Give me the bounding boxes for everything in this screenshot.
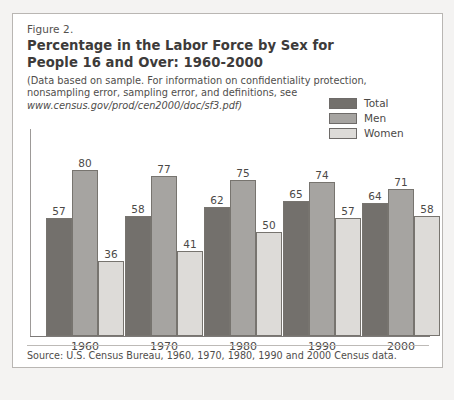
bar-men-1960[interactable]: 80 — [72, 170, 98, 336]
bar-group-1990: 657457 — [283, 128, 361, 336]
bar-value-men-1990: 74 — [310, 169, 334, 181]
bar-value-total-2000: 64 — [363, 190, 387, 202]
figure-frame: Figure 2. Percentage in the Labor Force … — [12, 13, 443, 368]
bar-women-1960[interactable]: 36 — [98, 261, 124, 336]
bar-value-total-1990: 65 — [284, 188, 308, 200]
bar-men-1970[interactable]: 77 — [151, 176, 177, 336]
bar-value-total-1980: 62 — [205, 194, 229, 206]
x-axis-baseline — [30, 336, 430, 337]
source-divider — [27, 345, 429, 346]
bar-value-women-1960: 36 — [99, 248, 123, 260]
figure-number: Figure 2. — [27, 23, 73, 35]
source-note: Source: U.S. Census Bureau, 1960, 1970, … — [27, 350, 397, 361]
y-axis-line — [30, 129, 31, 337]
legend-label-total: Total — [364, 98, 389, 109]
bar-women-1980[interactable]: 50 — [256, 232, 282, 336]
bar-value-women-1980: 50 — [257, 219, 281, 231]
bar-value-men-1970: 77 — [152, 163, 176, 175]
figure-note-url[interactable]: www.census.gov/prod/cen2000/doc/sf3.pdf) — [27, 100, 327, 112]
bar-value-total-1970: 58 — [126, 203, 150, 215]
bar-total-2000[interactable]: 64 — [362, 203, 388, 336]
legend-item-men: Men — [329, 111, 439, 125]
bar-value-women-1990: 57 — [336, 205, 360, 217]
bar-women-2000[interactable]: 58 — [414, 216, 440, 336]
legend-swatch-total — [329, 98, 357, 109]
bar-men-2000[interactable]: 71 — [388, 189, 414, 336]
figure-title: Percentage in the Labor Force by Sex for… — [27, 38, 427, 71]
bar-women-1970[interactable]: 41 — [177, 251, 203, 336]
bar-value-men-2000: 71 — [389, 176, 413, 188]
bar-chart-plot: 5780361960587741197062755019806574571990… — [30, 129, 430, 337]
bar-men-1990[interactable]: 74 — [309, 182, 335, 336]
figure-title-line-1: Percentage in the Labor Force by Sex for — [27, 38, 427, 55]
bar-group-1970: 587741 — [125, 128, 203, 336]
legend-label-men: Men — [364, 113, 386, 124]
bar-women-1990[interactable]: 57 — [335, 218, 361, 336]
bar-group-1980: 627550 — [204, 128, 282, 336]
legend-item-total: Total — [329, 96, 439, 110]
legend-swatch-men — [329, 113, 357, 124]
bar-value-men-1980: 75 — [231, 167, 255, 179]
figure-note: (Data based on sample. For information o… — [27, 75, 327, 112]
bar-total-1960[interactable]: 57 — [46, 218, 72, 336]
bar-men-1980[interactable]: 75 — [230, 180, 256, 336]
bar-value-men-1960: 80 — [73, 157, 97, 169]
bar-total-1970[interactable]: 58 — [125, 216, 151, 336]
bar-total-1990[interactable]: 65 — [283, 201, 309, 336]
bar-value-women-1970: 41 — [178, 238, 202, 250]
figure-title-line-2: People 16 and Over: 1960-2000 — [27, 55, 427, 72]
bar-value-women-2000: 58 — [415, 203, 439, 215]
bar-total-1980[interactable]: 62 — [204, 207, 230, 336]
figure-note-line-1: (Data based on sample. For information o… — [27, 75, 327, 87]
bar-value-total-1960: 57 — [47, 205, 71, 217]
page-background: Figure 2. Percentage in the Labor Force … — [0, 0, 454, 400]
bar-group-2000: 647158 — [362, 128, 440, 336]
bar-group-1960: 578036 — [46, 128, 124, 336]
figure-note-line-2: nonsampling error, sampling error, and d… — [27, 87, 327, 99]
